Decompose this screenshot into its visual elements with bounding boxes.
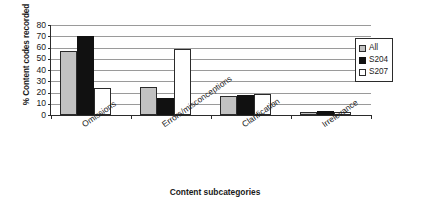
x-tick-mark [371,115,372,119]
bar-all-1 [140,87,157,115]
bar-group [220,25,271,115]
y-tick-label: 10 [24,99,46,108]
bar-all-0 [60,51,77,115]
x-axis-title: Content subcategories [0,187,430,197]
y-tick-label: 50 [24,54,46,63]
y-tick-label: 20 [24,88,46,97]
y-tick-label: 60 [24,43,46,52]
legend-item-all[interactable]: All [359,42,388,54]
legend-swatch-icon [359,69,366,76]
y-tick-label: 70 [24,32,46,41]
chart-legend: AllS204S207 [355,38,393,82]
legend-item-s207[interactable]: S207 [359,66,388,78]
y-tick-label: 80 [24,21,46,30]
bar-chart-figure: % Content codes recorded 010203040506070… [0,0,430,216]
legend-swatch-icon [359,45,366,52]
bar-s204-0 [77,36,94,115]
bar-all-3 [300,112,317,115]
y-tick-label: 0 [24,111,46,120]
x-tick-mark [51,115,52,119]
x-tick-mark [211,115,212,119]
legend-item-s204[interactable]: S204 [359,54,388,66]
bar-group [140,25,191,115]
legend-swatch-icon [359,57,366,64]
plot-area [50,25,371,116]
x-tick-mark [131,115,132,119]
legend-item-label: All [369,44,378,52]
bar-group [300,25,351,115]
x-tick-mark [291,115,292,119]
y-tick-label: 40 [24,66,46,75]
legend-item-label: S204 [369,56,388,64]
y-axis-tick-labels: 01020304050607080 [22,0,46,216]
y-tick-label: 30 [24,77,46,86]
bar-group [60,25,111,115]
bar-all-2 [220,96,237,115]
legend-item-label: S207 [369,68,388,76]
